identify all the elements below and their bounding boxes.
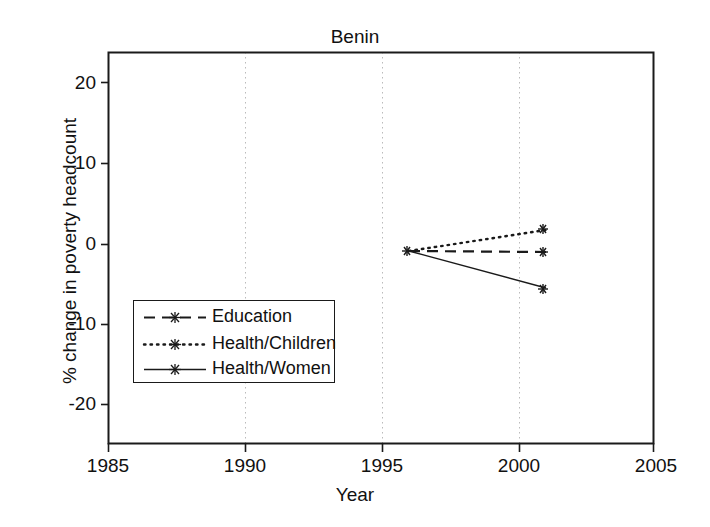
marker-health-women-2001: [538, 284, 548, 294]
chart-figure: Benin % change in poverty headcount Year…: [0, 0, 710, 527]
marker-health-children-2001: [538, 224, 548, 234]
legend-entry-health-children[interactable]: Health/Children: [134, 331, 336, 358]
legend-label-education: Education: [212, 306, 292, 327]
legend-sample-education: [142, 304, 208, 331]
legend: Education Health/Children: [133, 300, 335, 383]
plot-area: [0, 0, 710, 527]
legend-sample-health-children: [142, 331, 208, 358]
legend-entry-health-women[interactable]: Health/Women: [134, 356, 336, 383]
legend-sample-health-women: [142, 356, 208, 383]
y-axis-ticks: [101, 83, 108, 405]
marker-1996: [402, 246, 412, 256]
series-education: [409, 251, 546, 252]
legend-label-health-women: Health/Women: [212, 358, 331, 379]
legend-label-health-children: Health/Children: [212, 333, 336, 354]
plot-frame: [109, 53, 654, 444]
data-markers: [402, 224, 548, 294]
series-health-children: [409, 230, 546, 251]
gridlines: [246, 52, 520, 443]
marker-education-2001: [538, 247, 548, 257]
series-health-women: [409, 251, 546, 288]
legend-entry-education[interactable]: Education: [134, 304, 336, 331]
